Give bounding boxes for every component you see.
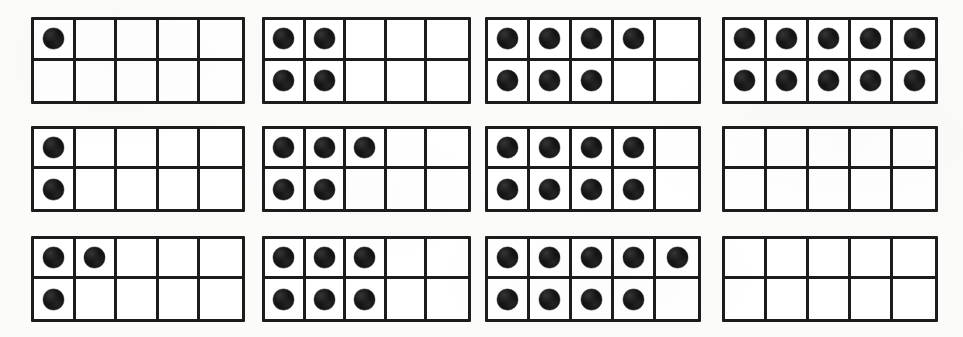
ten-frame-11 bbox=[485, 236, 701, 322]
ten-frame-cell bbox=[387, 61, 428, 102]
counter-dot bbox=[904, 28, 925, 49]
ten-frame-cell bbox=[200, 129, 242, 169]
ten-frame-cell bbox=[159, 279, 201, 319]
counter-dot bbox=[734, 28, 755, 49]
counter-dot bbox=[43, 289, 64, 310]
ten-frame-cell bbox=[159, 61, 201, 102]
ten-frame-cell bbox=[200, 169, 242, 209]
ten-frame-cell bbox=[306, 169, 347, 209]
ten-frame-6 bbox=[262, 126, 471, 212]
ten-frame-cell bbox=[725, 239, 767, 279]
ten-frame-cell bbox=[34, 239, 76, 279]
counter-dot bbox=[581, 70, 602, 91]
counter-dot bbox=[273, 247, 294, 268]
ten-frame-cell bbox=[34, 169, 76, 209]
ten-frame-cell bbox=[427, 61, 468, 102]
ten-frame-cell bbox=[656, 61, 698, 102]
ten-frame-cell bbox=[387, 169, 428, 209]
ten-frame-cell bbox=[656, 279, 698, 319]
ten-frames-worksheet bbox=[0, 0, 963, 337]
ten-frame-cell bbox=[851, 279, 893, 319]
counter-dot bbox=[273, 179, 294, 200]
ten-frame-cell bbox=[387, 20, 428, 61]
ten-frame-12 bbox=[722, 236, 938, 322]
counter-dot bbox=[734, 70, 755, 91]
ten-frame-cell bbox=[488, 169, 530, 209]
counter-dot bbox=[623, 289, 644, 310]
ten-frame-cell bbox=[656, 239, 698, 279]
ten-frame-2 bbox=[262, 17, 471, 104]
ten-frame-cell bbox=[572, 169, 614, 209]
ten-frame-cell bbox=[346, 20, 387, 61]
ten-frame-cell bbox=[76, 61, 118, 102]
counter-dot bbox=[623, 247, 644, 268]
counter-dot bbox=[43, 179, 64, 200]
ten-frame-cell bbox=[200, 20, 242, 61]
counter-dot bbox=[314, 247, 335, 268]
counter-dot bbox=[539, 28, 560, 49]
counter-dot bbox=[581, 247, 602, 268]
counter-dot bbox=[667, 247, 688, 268]
ten-frame-cell bbox=[893, 239, 935, 279]
ten-frame-cell bbox=[572, 239, 614, 279]
ten-frame-cell bbox=[809, 279, 851, 319]
ten-frame-cell bbox=[614, 169, 656, 209]
ten-frame-cell bbox=[346, 239, 387, 279]
ten-frame-cell bbox=[159, 239, 201, 279]
ten-frame-cell bbox=[76, 169, 118, 209]
ten-frame-cell bbox=[614, 239, 656, 279]
ten-frame-cell bbox=[656, 129, 698, 169]
counter-dot bbox=[273, 137, 294, 158]
counter-dot bbox=[623, 28, 644, 49]
ten-frame-cell bbox=[387, 129, 428, 169]
ten-frame-8 bbox=[722, 126, 938, 212]
counter-dot bbox=[776, 70, 797, 91]
counter-dot bbox=[776, 28, 797, 49]
ten-frame-cell bbox=[893, 129, 935, 169]
ten-frame-9 bbox=[31, 236, 245, 322]
ten-frame-cell bbox=[530, 61, 572, 102]
counter-dot bbox=[581, 137, 602, 158]
ten-frame-cell bbox=[76, 129, 118, 169]
counter-dot bbox=[273, 70, 294, 91]
ten-frame-cell bbox=[159, 20, 201, 61]
counter-dot bbox=[43, 247, 64, 268]
counter-dot bbox=[623, 179, 644, 200]
ten-frame-cell bbox=[656, 169, 698, 209]
ten-frame-cell bbox=[725, 61, 767, 102]
counter-dot bbox=[43, 137, 64, 158]
ten-frame-cell bbox=[725, 20, 767, 61]
ten-frame-cell bbox=[851, 169, 893, 209]
ten-frame-cell bbox=[34, 61, 76, 102]
counter-dot bbox=[497, 247, 518, 268]
ten-frame-4 bbox=[722, 17, 938, 104]
counter-dot bbox=[314, 289, 335, 310]
ten-frame-cell bbox=[614, 129, 656, 169]
ten-frame-cell bbox=[76, 279, 118, 319]
ten-frame-cell bbox=[809, 239, 851, 279]
counter-dot bbox=[497, 28, 518, 49]
ten-frame-cell bbox=[265, 20, 306, 61]
counter-dot bbox=[273, 28, 294, 49]
counter-dot bbox=[818, 28, 839, 49]
ten-frame-cell bbox=[488, 279, 530, 319]
ten-frame-cell bbox=[200, 279, 242, 319]
ten-frame-7 bbox=[485, 126, 701, 212]
ten-frame-cell bbox=[34, 129, 76, 169]
ten-frame-cell bbox=[809, 129, 851, 169]
ten-frame-cell bbox=[893, 20, 935, 61]
ten-frame-cell bbox=[306, 20, 347, 61]
ten-frame-cell bbox=[427, 20, 468, 61]
ten-frame-cell bbox=[34, 20, 76, 61]
counter-dot bbox=[497, 289, 518, 310]
ten-frame-cell bbox=[893, 169, 935, 209]
counter-dot bbox=[860, 70, 881, 91]
counter-dot bbox=[43, 28, 64, 49]
counter-dot bbox=[314, 28, 335, 49]
ten-frame-cell bbox=[767, 20, 809, 61]
ten-frame-cell bbox=[117, 169, 159, 209]
ten-frame-cell bbox=[265, 239, 306, 279]
counter-dot bbox=[539, 247, 560, 268]
ten-frame-cell bbox=[809, 169, 851, 209]
ten-frame-cell bbox=[306, 239, 347, 279]
